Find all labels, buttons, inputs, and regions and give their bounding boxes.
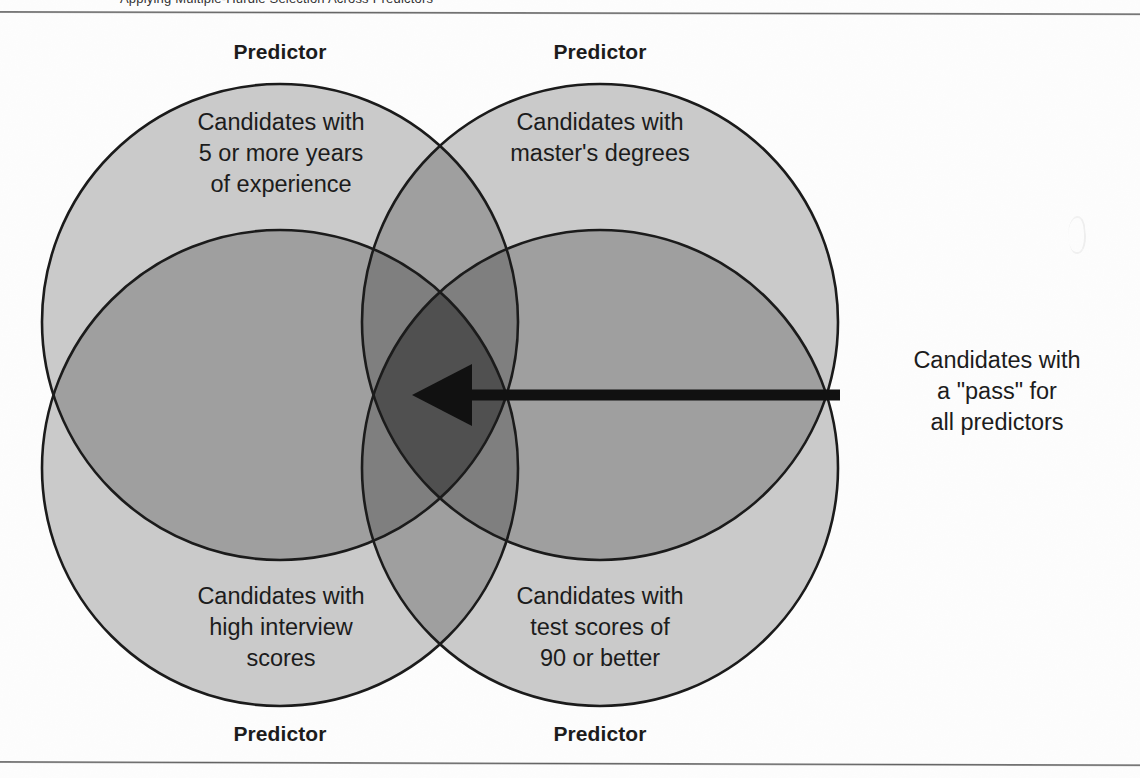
set-label-experience: Candidates with 5 or more years of exper… bbox=[131, 107, 431, 200]
set-label-interview: Candidates with high interview scores bbox=[131, 581, 431, 674]
callout-label-all-predictors: Candidates with a "pass" for all predict… bbox=[862, 345, 1132, 438]
set-label-test-scores: Candidates with test scores of 90 or bet… bbox=[450, 581, 750, 674]
figure-container: Applying Multiple-Hurdle Selection Acros… bbox=[0, 0, 1140, 778]
predictor-label-bottom-right: Predictor bbox=[500, 722, 700, 746]
predictor-label-top-right: Predictor bbox=[500, 40, 700, 64]
predictor-label-bottom-left: Predictor bbox=[180, 722, 380, 746]
predictor-label-top-left: Predictor bbox=[180, 40, 380, 64]
set-label-education: Candidates with master's degrees bbox=[450, 107, 750, 169]
